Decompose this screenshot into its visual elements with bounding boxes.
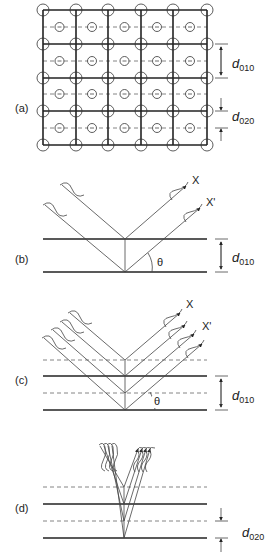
d010-label-a: d010 bbox=[232, 56, 254, 73]
panel-a-label: (a) bbox=[15, 102, 28, 114]
d020-label-d: d020 bbox=[242, 525, 264, 542]
theta-label-b: θ bbox=[157, 256, 163, 268]
theta-label-c: θ bbox=[154, 395, 160, 407]
panel-b: (b) X X' θ d010 bbox=[15, 174, 254, 272]
d010-spacing-a: d010 bbox=[215, 44, 254, 78]
panel-c-label: (c) bbox=[15, 374, 28, 386]
diffraction-diagram: (a) bbox=[0, 0, 271, 559]
ray-x-label-c: X bbox=[186, 298, 194, 310]
d010-label-c: d010 bbox=[232, 388, 254, 405]
d020-spacing-a: d020 bbox=[215, 98, 254, 141]
panel-d: (d) d020 bbox=[15, 443, 264, 552]
panel-c: (c) X X' θ d010 bbox=[15, 298, 254, 410]
panel-a: (a) bbox=[15, 4, 254, 151]
d020-label-a: d020 bbox=[232, 109, 254, 126]
ray-x-label-b: X bbox=[192, 174, 200, 186]
ray-x-prime-label-c: X' bbox=[202, 320, 211, 332]
panel-d-label: (d) bbox=[15, 502, 28, 514]
ray-x-prime-label-b: X' bbox=[206, 196, 215, 208]
panel-b-label: (b) bbox=[15, 253, 28, 265]
d010-label-b: d010 bbox=[232, 250, 254, 267]
